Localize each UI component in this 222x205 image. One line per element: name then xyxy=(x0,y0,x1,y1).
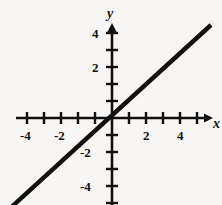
y-tick-label--2: -2 xyxy=(80,146,90,159)
x-axis-label: x xyxy=(213,117,220,131)
x-tick-label--2: -2 xyxy=(54,129,64,142)
y-tick-label-4: 4 xyxy=(92,27,98,40)
graph-canvas xyxy=(0,0,222,205)
y-tick-label-2: 2 xyxy=(92,61,98,74)
y-tick-label--4: -4 xyxy=(80,180,90,193)
x-tick-label-2: 2 xyxy=(143,129,149,142)
x-tick-label--4: -4 xyxy=(20,129,30,142)
x-tick-label-4: 4 xyxy=(177,129,183,142)
y-axis-label: y xyxy=(107,7,113,21)
